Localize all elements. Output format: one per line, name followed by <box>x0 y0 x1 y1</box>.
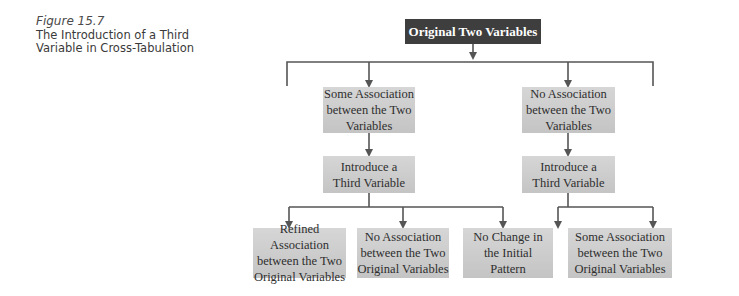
node-label-line: Introduce a <box>333 159 405 175</box>
node-no-change-initial-pattern: No Change in the Initial Pattern <box>463 228 553 278</box>
node-some-association-original: Some Association between the Two Origina… <box>568 228 672 278</box>
node-label-line: between the Two <box>253 253 346 269</box>
node-label-line: Third Variable <box>333 175 405 191</box>
node-label-line: Introduce a <box>532 159 604 175</box>
node-original-two-variables: Original Two Variables <box>405 19 541 44</box>
node-label-line: between the Two <box>357 245 448 261</box>
node-label-line: between the Two <box>324 102 414 118</box>
node-label-line: Original Variables <box>574 261 665 277</box>
node-label-line: No Association <box>526 86 611 102</box>
node-label-line: No Change in <box>473 229 542 245</box>
node-some-association: Some Association between the Two Variabl… <box>323 87 415 133</box>
node-label-line: Some Association <box>324 86 414 102</box>
node-refined-association: Refined Association between the Two Orig… <box>253 228 346 278</box>
node-label-line: the Initial <box>473 245 542 261</box>
node-label-line: Variables <box>526 118 611 134</box>
node-label-line: Pattern <box>473 261 542 277</box>
node-no-association: No Association between the Two Variables <box>522 87 615 133</box>
node-label-line: No Association <box>357 229 448 245</box>
node-label-line: Original Variables <box>253 269 346 285</box>
node-label: Original Two Variables <box>409 24 538 40</box>
node-label-line: Refined Association <box>253 221 346 253</box>
node-label-line: Variables <box>324 118 414 134</box>
node-label-line: Original Variables <box>357 261 448 277</box>
node-introduce-third-variable-left: Introduce a Third Variable <box>323 156 415 193</box>
node-label-line: Some Association <box>574 229 665 245</box>
node-introduce-third-variable-right: Introduce a Third Variable <box>522 156 615 193</box>
node-label-line: Third Variable <box>532 175 604 191</box>
node-label-line: between the Two <box>526 102 611 118</box>
node-label-line: between the Two <box>574 245 665 261</box>
node-no-association-original: No Association between the Two Original … <box>357 228 449 278</box>
